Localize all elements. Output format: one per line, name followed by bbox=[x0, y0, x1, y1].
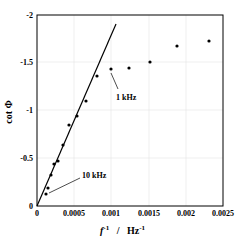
plot-frame bbox=[37, 15, 223, 206]
svg-text:0.0025: 0.0025 bbox=[212, 209, 234, 218]
svg-text:0: 0 bbox=[35, 209, 39, 218]
y-axis-label: cot Φ bbox=[3, 100, 14, 124]
svg-text:0: 0 bbox=[29, 202, 33, 211]
chart: 0-0.5-1 -1.5-2 00.00050.001 0.00150.0020… bbox=[0, 0, 243, 245]
svg-text:-1.5: -1.5 bbox=[20, 58, 33, 67]
x-axis-label: f-1 / Hz-1 bbox=[100, 224, 146, 236]
svg-text:-1: -1 bbox=[26, 106, 33, 115]
svg-text:0.0015: 0.0015 bbox=[138, 209, 160, 218]
svg-text:0.002: 0.002 bbox=[177, 209, 195, 218]
annotation-10khz: 10 kHz bbox=[82, 171, 107, 180]
annotation-1khz: 1 kHz bbox=[116, 93, 137, 102]
svg-text:-0.5: -0.5 bbox=[20, 154, 33, 163]
data-points bbox=[44, 39, 210, 195]
svg-text:0.0005: 0.0005 bbox=[63, 209, 85, 218]
svg-text:0.001: 0.001 bbox=[102, 209, 120, 218]
svg-text:-2: -2 bbox=[26, 11, 33, 20]
x-tick-labels: 00.00050.001 0.00150.0020.0025 bbox=[35, 209, 234, 218]
y-tick-labels: 0-0.5-1 -1.5-2 bbox=[20, 11, 33, 211]
gridlines bbox=[37, 15, 223, 206]
